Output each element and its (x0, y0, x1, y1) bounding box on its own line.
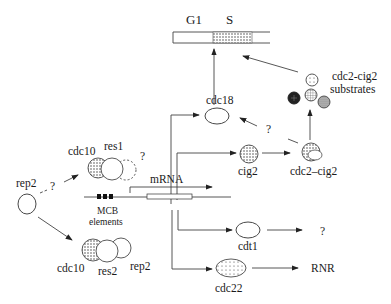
complex2-cdc10-label: cdc10 (57, 262, 85, 274)
cdt1-node: cdt1 ? (236, 222, 325, 252)
cig2-node: cig2 (238, 145, 290, 178)
cdt1-label: cdt1 (238, 240, 258, 252)
complex1-res1-label: res1 (104, 140, 123, 152)
cdc10-res2-rep2-complex: cdc10 res2 rep2 (57, 238, 151, 277)
complex1-unknown-label: ? (140, 150, 145, 162)
dsc-pathway-diagram: G1 S cdc18 cdc2-cig2 substrates cig2 cdc… (0, 0, 391, 304)
g1-label: G1 (186, 12, 202, 27)
mcb-label-line2: elements (89, 217, 123, 227)
cdc2-cig2-label: cdc2–cig2 (290, 165, 338, 178)
s-phase-block (213, 32, 252, 43)
substrates-label-line1: cdc2-cig2 (332, 70, 378, 83)
rep2-to-complex1-question: ? (50, 180, 55, 192)
mcb-element (109, 194, 113, 199)
complex1-cdc10-label: cdc10 (68, 145, 96, 157)
cdc10-res1-complex: cdc10 res1 ? (68, 140, 145, 180)
s-label: S (226, 12, 233, 27)
mrna-label: mRNA (150, 173, 184, 185)
rep2-free-label: rep2 (16, 177, 37, 190)
cig2-label: cig2 (238, 165, 258, 178)
cell-cycle-bar: G1 S (173, 12, 270, 43)
mcb-element (103, 194, 107, 199)
complex2-res2-label: res2 (98, 265, 117, 277)
cdc2cig2-to-cdc18-question: ? (266, 123, 271, 135)
cdc2-cig2-substrates: cdc2-cig2 substrates (243, 56, 378, 108)
orf-box (147, 194, 192, 199)
rep2-free-node: rep2 ? (16, 175, 78, 240)
mcb-label-line1: MCB (97, 206, 118, 216)
cdc22-label: cdc22 (215, 282, 243, 294)
gene-promoter: MCB elements mRNA (84, 173, 231, 227)
substrates-label-line2: substrates (330, 83, 376, 95)
rnr-label: RNR (311, 262, 335, 274)
cdt1-target-question: ? (320, 225, 325, 237)
cdc22-node: cdc22 RNR (215, 259, 335, 294)
mrna-branch-lines (171, 115, 236, 269)
complex2-rep2-label: rep2 (130, 260, 151, 273)
mcb-element (97, 194, 101, 199)
cdc18-label: cdc18 (206, 94, 234, 106)
cdc18-node: cdc18 (205, 49, 234, 124)
